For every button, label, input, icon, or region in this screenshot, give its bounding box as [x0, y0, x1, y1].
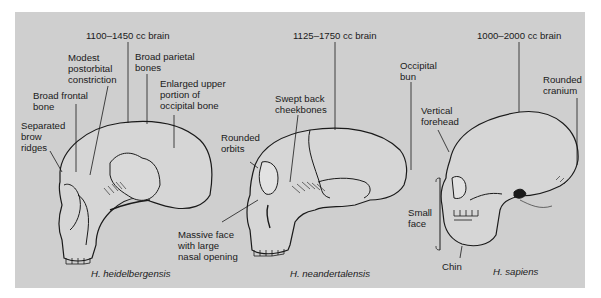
- species-sapiens: H. sapiens: [493, 266, 538, 277]
- label-sapiens-brain: 1000–2000 cc brain: [477, 30, 561, 41]
- label-heidelbergensis-occipital: Enlarged upper portion of occipital bone: [160, 78, 226, 111]
- species-neandertalensis: H. neandertalensis: [290, 268, 370, 279]
- sapiens-skull-icon: [441, 112, 578, 246]
- skull-illustrations: [0, 0, 601, 298]
- label-heidelbergensis-frontal: Broad frontal bone: [33, 90, 88, 112]
- label-neandertalensis-orbits: Rounded orbits: [221, 132, 260, 154]
- label-sapiens-chin: Chin: [442, 261, 462, 272]
- label-neandertalensis-face: Massive face with large nasal opening: [178, 229, 238, 262]
- label-heidelbergensis-postorbital: Modest postorbital constriction: [68, 52, 117, 85]
- label-heidelbergensis-brow: Separated brow ridges: [21, 120, 65, 153]
- label-neandertalensis-cheekbones: Swept back cheekbones: [275, 93, 327, 115]
- species-heidelbergensis: H. heidelbergensis: [91, 268, 170, 279]
- label-neandertalensis-brain: 1125–1750 cc brain: [293, 30, 377, 41]
- label-sapiens-cranium: Rounded cranium: [543, 74, 582, 96]
- label-heidelbergensis-parietal: Broad parietal bones: [135, 51, 195, 73]
- neandertalensis-skull-icon: [247, 128, 407, 256]
- label-sapiens-face: Small face: [408, 207, 432, 229]
- label-sapiens-forehead: Vertical forehead: [421, 105, 459, 127]
- label-neandertalensis-bun: Occipital bun: [400, 60, 437, 82]
- label-heidelbergensis-brain: 1100–1450 cc brain: [86, 30, 170, 41]
